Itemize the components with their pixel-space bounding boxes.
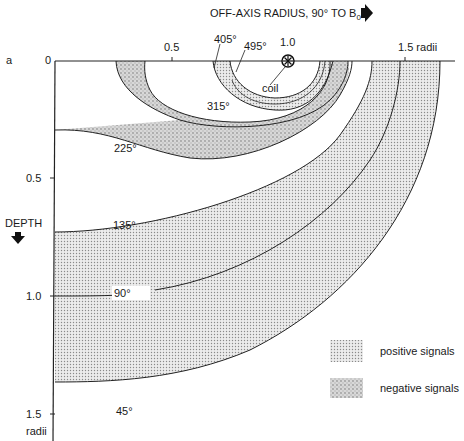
y-axis-line [53, 61, 55, 441]
contour-label-90: 90° [114, 287, 131, 299]
legend-label-positive: positive signals [380, 345, 455, 357]
legend-label-negative: negative signals [380, 382, 459, 394]
contour-label-225: 225° [114, 142, 137, 154]
contour-label-495: 495° [244, 40, 267, 52]
y-tick-1.0: 1.0 [26, 290, 41, 302]
x-tick-0.5: 0.5 [164, 41, 179, 53]
y-tick-0.5: 0.5 [26, 172, 41, 184]
contour-label-405: 405° [214, 33, 237, 45]
legend-swatch-negative [330, 378, 363, 398]
y-tick-1.5: 1.5 [26, 408, 41, 420]
x-axis-title: OFF-AXIS RADIUS, 90° TO B0 [210, 7, 361, 22]
negative-band [55, 61, 349, 159]
x-tick-1.5: 1.5 radii [398, 41, 437, 53]
x-tick-1.0: 1.0 [280, 36, 295, 48]
coil-label: coil [262, 82, 279, 94]
right-arrow-icon [365, 4, 373, 22]
contour-label-45: 45° [116, 405, 133, 417]
down-arrow-icon [11, 236, 25, 244]
coil-icon [282, 55, 294, 67]
contour-label-315: 315° [207, 100, 230, 112]
flip-angle-contour-diagram: a 0 0.5 1.0 1.5 radii 0.5 1.0 1.5 radii … [0, 0, 464, 441]
contour-label-135: 135° [113, 219, 136, 231]
x-tick-0: 0 [45, 54, 51, 66]
legend-swatch-positive [330, 340, 363, 362]
y-axis-title: DEPTH [5, 217, 42, 229]
panel-label: a [6, 54, 13, 66]
y-axis-unit: radii [26, 425, 47, 437]
